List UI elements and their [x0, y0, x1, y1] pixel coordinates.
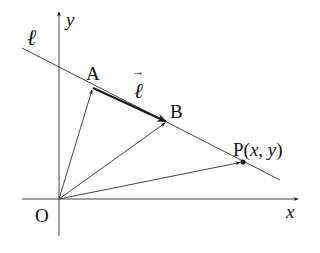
position-vector-b	[59, 123, 165, 199]
x-axis-label: x	[285, 201, 295, 222]
position-vector-p	[59, 163, 240, 200]
point-p-name: P(	[233, 139, 250, 161]
point-p-dot	[240, 159, 245, 164]
vector-line-diagram: ℓ y x O A B → ℓ P(x, y)	[0, 0, 320, 253]
vector-l-label: ℓ	[134, 79, 143, 103]
point-b-label: B	[170, 101, 183, 122]
y-axis-label: y	[64, 9, 75, 30]
vector-arrow-icon: →	[131, 64, 144, 79]
point-p-label: P(x, y)	[233, 139, 283, 161]
origin-label: O	[35, 205, 49, 226]
point-p-comma: ,	[258, 139, 268, 160]
point-a-label: A	[86, 63, 100, 84]
line-label: ℓ	[27, 25, 37, 50]
point-p-y: y	[266, 139, 277, 160]
position-vector-a	[59, 90, 92, 199]
point-p-close: )	[276, 139, 282, 161]
direction-vector-l	[93, 88, 166, 122]
